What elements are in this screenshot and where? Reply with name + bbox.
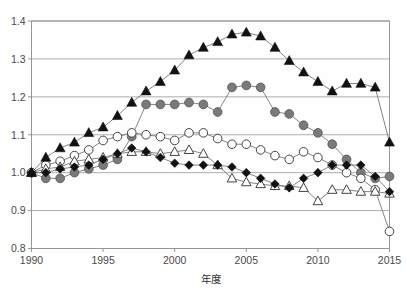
line-chart-canvas: 199019952000200520102015 0.80.91.01.11.2… [0,0,406,292]
filled-circle-series [27,81,394,183]
data-point [285,155,294,164]
data-point [385,172,394,181]
y-axis-tick-labels: 0.80.91.01.11.21.31.4 [11,15,26,255]
data-point [241,27,251,36]
x-tick-label: 2005 [235,254,259,266]
data-point [356,78,366,87]
y-tick-label: 1.0 [11,166,26,178]
data-point [213,108,222,117]
data-point [314,128,323,137]
data-point [256,146,265,155]
x-tick-label: 1995 [91,254,115,266]
data-point [256,174,265,183]
data-point [314,168,323,177]
data-point [342,78,352,87]
data-point [299,148,308,157]
data-point [284,56,294,65]
y-tick-label: 0.9 [11,204,26,216]
gridlines [32,21,390,211]
data-point [142,100,151,109]
x-axis-title-text: 年度 [201,273,222,285]
data-point [357,174,366,183]
y-tick-label: 1.1 [11,129,26,141]
plot-frame [28,21,390,252]
data-point [299,121,308,130]
data-point [170,100,179,109]
y-tick-label: 1.2 [11,91,26,103]
data-point [199,100,208,109]
data-point [155,76,165,85]
data-point [385,227,394,236]
y-tick-label: 0.8 [11,242,26,254]
data-point [228,140,237,149]
data-point [185,161,194,170]
data-point [385,137,395,146]
data-point [357,161,366,170]
x-tick-label: 2000 [163,254,187,266]
data-point [242,168,251,177]
data-point [98,122,108,131]
data-point [271,108,280,117]
data-point [99,136,108,145]
y-tick-label: 1.4 [11,15,26,27]
data-point [256,83,265,92]
data-point [328,140,337,149]
data-point [156,100,165,109]
x-tick-label: 2015 [378,254,402,266]
data-point [299,67,309,76]
data-point [299,174,308,183]
data-point [313,76,323,85]
data-point [70,137,80,146]
data-point [327,185,337,194]
data-point [342,185,352,194]
data-point [185,129,194,138]
data-point [170,159,179,168]
filled-triangle-series [27,27,395,176]
data-point [313,196,323,205]
data-point [84,146,93,155]
data-point [184,145,194,154]
data-point [113,132,122,141]
data-point [242,140,251,149]
data-point [156,132,165,141]
data-point [127,97,137,106]
open-circle-series [27,129,394,236]
data-point [184,50,194,59]
data-point [213,37,223,46]
data-point [285,184,294,193]
series-layer [27,27,395,236]
data-point [127,129,136,138]
data-point [185,98,194,107]
data-point [228,83,237,92]
data-point [227,173,237,182]
data-point [327,86,337,95]
data-point [141,86,151,95]
data-point [199,161,208,170]
data-point [170,136,179,145]
data-point [41,152,51,161]
data-point [127,144,136,153]
data-point [271,151,280,160]
data-point [314,153,323,162]
data-point [198,42,208,51]
data-point [199,129,208,138]
data-point [84,128,94,137]
data-point [228,163,237,172]
data-point [142,130,151,139]
x-axis-title: 年度 [201,273,222,285]
data-point [270,42,280,51]
y-tick-label: 1.3 [11,53,26,65]
x-axis-tick-labels: 199019952000200520102015 [20,254,402,266]
data-point [242,81,251,90]
data-point [213,134,222,143]
x-tick-label: 2010 [306,254,330,266]
data-point [112,111,122,120]
data-point [285,109,294,118]
data-point [55,143,65,152]
chart-root: 199019952000200520102015 0.80.91.01.11.2… [0,0,406,292]
open-triangle-series [27,145,395,205]
data-point [56,174,65,183]
x-tick-label: 1990 [20,254,44,266]
